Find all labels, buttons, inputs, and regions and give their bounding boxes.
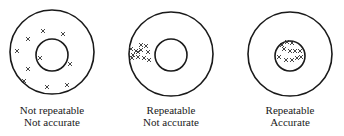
label-target-1-line2: Not accurate [0, 116, 107, 128]
cross-mark-icon [15, 49, 19, 53]
cross-mark-icon [26, 67, 30, 71]
label-target-3: Repeatable Accurate [235, 104, 344, 128]
bullseye-ring [36, 39, 68, 71]
cross-mark-icon [45, 85, 49, 89]
cross-mark-icon [41, 29, 45, 33]
cross-mark-icon [277, 55, 281, 59]
cross-mark-icon [290, 58, 294, 62]
cross-mark-icon [299, 55, 303, 59]
cross-mark-icon [136, 55, 140, 59]
label-target-2-line1: Repeatable [116, 104, 226, 116]
cross-mark-icon [65, 83, 69, 87]
label-target-2: Repeatable Not accurate [116, 104, 226, 128]
label-target-2-line2: Not accurate [116, 116, 226, 128]
cross-mark-icon [288, 49, 292, 53]
target-3 [248, 12, 332, 96]
cross-mark-icon [147, 58, 151, 62]
label-target-3-line1: Repeatable [235, 104, 344, 116]
cross-mark-icon [282, 47, 286, 51]
cross-mark-icon [139, 43, 143, 47]
label-target-1-line1: Not repeatable [0, 104, 107, 116]
cross-mark-icon [26, 37, 30, 41]
cross-mark-icon [146, 50, 150, 54]
cross-mark-icon [68, 62, 72, 66]
label-target-3-line2: Accurate [235, 116, 344, 128]
target-2 [129, 12, 213, 96]
target-1 [10, 10, 94, 94]
cross-mark-icon [284, 58, 288, 62]
cross-mark-icon [142, 56, 146, 60]
outer-ring [129, 12, 213, 96]
outer-ring [248, 12, 332, 96]
outer-ring [10, 10, 94, 94]
cross-mark-icon [298, 49, 302, 53]
cross-mark-icon [38, 56, 42, 60]
cross-mark-icon [295, 56, 299, 60]
label-target-1: Not repeatable Not accurate [0, 104, 107, 128]
cross-mark-icon [144, 44, 148, 48]
cross-mark-icon [293, 49, 297, 53]
bullseye-ring [155, 39, 187, 71]
cross-mark-icon [61, 32, 65, 36]
